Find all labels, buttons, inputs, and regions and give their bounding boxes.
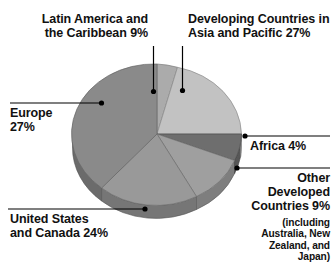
label-europe-line1: Europe <box>10 106 100 120</box>
label-other-developed-sub3: Zealand, and <box>218 240 330 251</box>
leader-dot-africa <box>242 133 247 138</box>
label-us-canada-line1: United States <box>10 212 160 226</box>
label-africa: Africa 4% <box>250 139 334 153</box>
label-other-developed-sub4: Japan) <box>218 251 330 262</box>
pie-top-face <box>72 64 242 206</box>
leader-dot-other-developed <box>234 165 239 170</box>
label-us-canada-line2: and Canada 24% <box>10 226 160 240</box>
label-europe: Europe 27% <box>10 106 100 134</box>
label-other-developed-sub2: Australia, New <box>218 228 330 239</box>
label-latin-america-line2: the Caribbean 9% <box>22 26 148 40</box>
pie-chart-figure: Latin America and the Caribbean 9% Devel… <box>0 0 334 279</box>
label-africa-line1: Africa 4% <box>250 139 334 153</box>
leader-dot-us-canada <box>142 206 147 211</box>
label-europe-line2: 27% <box>10 120 100 134</box>
label-us-canada: United States and Canada 24% <box>10 212 160 240</box>
leader-dot-asia-pacific <box>180 88 185 93</box>
label-other-developed-line1: Other <box>218 171 330 185</box>
label-latin-america: Latin America and the Caribbean 9% <box>22 12 148 40</box>
label-other-developed-note: (including Australia, New Zealand, and J… <box>218 217 330 263</box>
label-latin-america-line1: Latin America and <box>22 12 148 26</box>
label-other-developed: Other Developed Countries 9% <box>218 171 330 213</box>
label-other-developed-sub1: (including <box>218 217 330 228</box>
label-other-developed-line3: Countries 9% <box>218 199 330 213</box>
label-asia-pacific-line2: Asia and Pacific 27% <box>188 26 334 40</box>
label-other-developed-line2: Developed <box>218 185 330 199</box>
label-asia-pacific: Developing Countries in Asia and Pacific… <box>188 12 334 40</box>
leader-dot-europe <box>99 100 104 105</box>
label-asia-pacific-line1: Developing Countries in <box>188 12 334 26</box>
leader-dot-latin-america <box>151 89 156 94</box>
